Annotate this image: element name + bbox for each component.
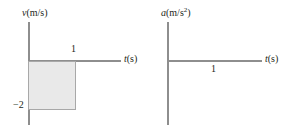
velocity-panel-tick-label-one: 1 <box>71 44 76 54</box>
acceleration-panel-time-axis-label: t(s) <box>265 54 278 64</box>
acceleration-axis-line <box>167 22 169 125</box>
acceleration-time-axis-line <box>167 60 262 62</box>
velocity-panel-tick-label-minus-two: −2 <box>13 100 24 110</box>
velocity-shaded-area <box>28 61 76 110</box>
velocity-axis-units: (m/s) <box>26 7 47 18</box>
time-axis-units: (s) <box>268 53 279 64</box>
physics-kinematics-figure: v(m/s) t(s) 1 −2 a(m/s2) t(s) 1 <box>0 0 305 135</box>
velocity-time-graph-panel: v(m/s) t(s) 1 −2 <box>0 0 152 135</box>
acceleration-panel-tick-label-one: 1 <box>211 64 216 74</box>
acceleration-axis-units-suffix: ) <box>187 7 190 18</box>
velocity-panel-time-axis-label: t(s) <box>124 54 137 64</box>
time-axis-units: (s) <box>127 53 138 64</box>
acceleration-time-graph-panel: a(m/s2) t(s) 1 <box>152 0 305 135</box>
acceleration-axis-units-prefix: (m/s <box>166 7 184 18</box>
acceleration-axis-label: a(m/s2) <box>161 8 191 18</box>
velocity-axis-label: v(m/s) <box>22 8 48 18</box>
